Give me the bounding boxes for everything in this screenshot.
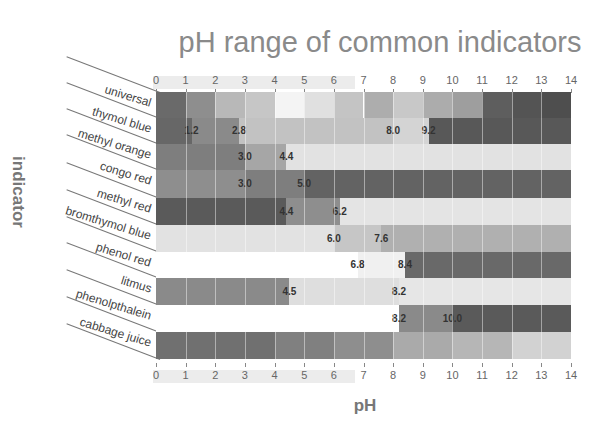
color-segment [423,92,453,118]
transition-value-label: 6.2 [333,206,347,217]
grid-line [364,92,365,359]
color-segment [275,92,305,118]
x-tick-label: 6 [324,74,344,86]
y-axis-label: indicator [8,152,28,232]
x-tick-label: 4 [265,369,285,381]
transition-value-label: 2.8 [232,125,246,136]
x-tick-label: 0 [146,74,166,86]
color-segment [156,170,245,198]
x-tick-label: 4 [265,74,285,86]
x-axis-label: pH [0,396,609,416]
x-tick-label: 14 [561,369,581,381]
x-tick-label: 5 [294,74,314,86]
transition-value-label: 6.8 [351,259,365,270]
color-segment [289,278,399,305]
color-segment [512,92,542,118]
x-tick-label: 9 [413,369,433,381]
x-tick-mark [452,363,453,367]
x-tick-label: 8 [383,369,403,381]
grid-line [393,92,394,359]
transition-value-label: 7.6 [374,233,388,244]
grid-line [334,92,335,359]
color-segment [245,92,275,118]
x-tick-mark [215,363,216,367]
grid-line [423,92,424,359]
color-segment [304,170,571,198]
transition-value-label: 4.4 [279,206,293,217]
color-segment [381,225,571,252]
transition-value-label: 4.4 [279,151,293,162]
color-segment [452,92,482,118]
x-axis-top: 01234567891011121314 [150,73,580,93]
x-tick-mark [541,363,542,367]
x-tick-mark [275,363,276,367]
color-segment [156,92,186,118]
color-segment [239,118,393,144]
color-segment [399,278,571,305]
transition-value-label: 8.4 [398,259,412,270]
grid-line [245,92,246,359]
x-tick-mark [482,363,483,367]
grid-line [452,92,453,359]
color-segment [340,198,571,225]
x-tick-mark [512,363,513,367]
x-tick-label: 11 [472,369,492,381]
color-segment [482,92,512,118]
color-segment [364,92,394,118]
x-tick-mark [423,363,424,367]
grid-line [512,92,513,359]
x-tick-label: 14 [561,74,581,86]
transition-value-label: 8.2 [392,286,406,297]
x-tick-label: 2 [205,74,225,86]
color-segment [304,92,334,118]
color-segment [286,198,339,225]
color-segment [405,252,571,278]
color-segment [286,144,571,170]
color-segment [156,278,289,305]
plot-area: 1.22.88.09.23.04.43.05.04.46.26.07.66.88… [156,92,571,359]
x-tick-label: 10 [442,369,462,381]
color-segment [215,92,245,118]
chart-title: pH range of common indicators [0,26,609,59]
color-segment [186,92,216,118]
x-tick-label: 13 [531,74,551,86]
x-tick-label: 3 [235,74,255,86]
x-tick-mark [186,363,187,367]
x-tick-label: 8 [383,74,403,86]
x-tick-mark [571,363,572,367]
x-tick-mark [245,363,246,367]
grid-line [275,92,276,359]
grid-line [215,92,216,359]
x-tick-mark [156,363,157,367]
x-tick-mark [364,363,365,367]
x-tick-label: 5 [294,369,314,381]
x-tick-label: 9 [413,74,433,86]
x-tick-mark [304,363,305,367]
color-segment [334,92,364,118]
x-tick-label: 7 [354,369,374,381]
x-tick-label: 12 [502,74,522,86]
transition-value-label: 4.5 [282,286,296,297]
x-tick-mark [393,363,394,367]
x-tick-label: 10 [442,74,462,86]
color-segment [156,144,245,170]
x-tick-label: 12 [502,369,522,381]
x-tick-label: 13 [531,369,551,381]
x-tick-mark [571,89,572,93]
x-tick-label: 7 [354,74,374,86]
x-tick-label: 2 [205,369,225,381]
x-tick-label: 11 [472,74,492,86]
color-segment [156,198,286,225]
grid-line [186,92,187,359]
grid-line [304,92,305,359]
x-axis-bottom: 01234567891011121314 [150,367,580,387]
x-tick-mark [334,363,335,367]
transition-value-label: 1.2 [185,125,199,136]
grid-line [541,92,542,359]
x-tick-label: 3 [235,369,255,381]
color-segment [429,118,571,144]
x-tick-label: 1 [176,369,196,381]
color-segment [393,92,423,118]
x-tick-label: 6 [324,369,344,381]
x-tick-label: 1 [176,74,196,86]
